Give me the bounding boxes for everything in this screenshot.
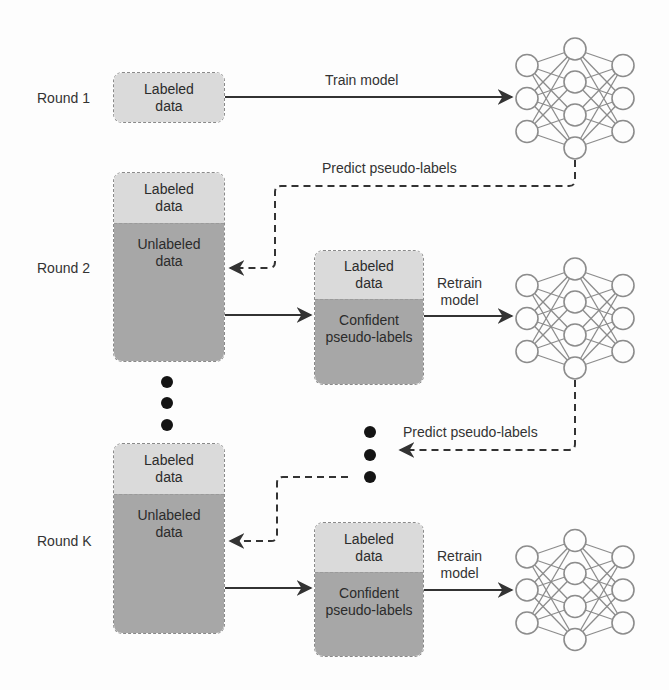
unlabeled-data-text: Unlabeled data — [137, 507, 200, 541]
ellipsis-dot-icon — [161, 397, 173, 409]
neuron-node — [564, 104, 586, 126]
confident-pseudo-labels-text: Confident pseudo-labels — [325, 585, 412, 619]
neuron-node — [612, 88, 634, 110]
round-k-data-box: Labeled data Unlabeled data — [113, 443, 225, 634]
predict-pseudo-labels-label-2: Predict pseudo-labels — [403, 424, 538, 441]
retrain-model-label-k: Retrain model — [437, 548, 482, 582]
neuron-node — [612, 612, 634, 634]
labeled-data-segment: Labeled data — [114, 73, 224, 122]
round-2-data-box: Labeled data Unlabeled data — [113, 172, 225, 362]
predict-pseudo-labels-label-1: Predict pseudo-labels — [322, 160, 457, 177]
neural-network-icon — [516, 38, 634, 159]
labeled-data-text: Labeled data — [144, 181, 194, 215]
labeled-data-segment: Labeled data — [315, 523, 423, 572]
neuron-node — [564, 258, 586, 280]
unlabeled-data-text: Unlabeled data — [137, 236, 200, 270]
neuron-node — [516, 579, 538, 601]
round-1-label: Round 1 — [37, 90, 90, 106]
confident-pseudo-labels-segment: Confident pseudo-labels — [315, 572, 423, 656]
neuron-node — [564, 629, 586, 651]
ellipsis-dot-icon — [364, 449, 376, 461]
neural-network-icon — [516, 530, 634, 651]
neuron-node — [516, 55, 538, 77]
neuron-node — [612, 579, 634, 601]
round-k-label: Round K — [37, 533, 91, 549]
neuron-node — [564, 291, 586, 313]
ellipsis-dot-icon — [364, 426, 376, 438]
neuron-node — [612, 546, 634, 568]
neuron-node — [612, 341, 634, 363]
neuron-node — [564, 71, 586, 93]
train-model-label: Train model — [325, 72, 398, 89]
round-2-label: Round 2 — [37, 260, 90, 276]
labeled-data-text: Labeled data — [144, 81, 194, 115]
neuron-node — [516, 88, 538, 110]
neuron-node — [564, 324, 586, 346]
unlabeled-data-segment: Unlabeled data — [114, 494, 224, 633]
neural-network-icon — [516, 258, 634, 379]
neuron-node — [612, 275, 634, 297]
confident-pseudo-labels-text: Confident pseudo-labels — [325, 312, 412, 346]
pseudo-labeling-diagram: Round 1 Round 2 Round K Labeled data Lab… — [0, 0, 669, 690]
retrain-model-label-2: Retrain model — [437, 275, 482, 309]
ellipsis-dot-icon — [364, 471, 376, 483]
labeled-data-text: Labeled data — [344, 258, 394, 292]
neuron-node — [612, 308, 634, 330]
round-2-training-set-box: Labeled data Confident pseudo-labels — [314, 250, 424, 385]
neuron-node — [564, 357, 586, 379]
neuron-node — [564, 137, 586, 159]
labeled-data-segment: Labeled data — [114, 444, 224, 494]
labeled-data-segment: Labeled data — [315, 251, 423, 299]
neuron-node — [516, 308, 538, 330]
labeled-data-text: Labeled data — [344, 531, 394, 565]
neuron-node — [564, 563, 586, 585]
labeled-data-segment: Labeled data — [114, 173, 224, 223]
neuron-node — [564, 530, 586, 552]
neuron-node — [516, 546, 538, 568]
confident-pseudo-labels-segment: Confident pseudo-labels — [315, 299, 423, 384]
neuron-node — [516, 612, 538, 634]
neuron-node — [516, 121, 538, 143]
unlabeled-data-segment: Unlabeled data — [114, 223, 224, 361]
neuron-node — [516, 341, 538, 363]
neuron-node — [612, 55, 634, 77]
neuron-node — [564, 596, 586, 618]
round-1-labeled-data-box: Labeled data — [113, 72, 225, 123]
ellipsis-dot-icon — [161, 419, 173, 431]
round-k-training-set-box: Labeled data Confident pseudo-labels — [314, 522, 424, 657]
neuron-node — [516, 275, 538, 297]
labeled-data-text: Labeled data — [144, 452, 194, 486]
neuron-node — [564, 38, 586, 60]
neuron-node — [612, 121, 634, 143]
ellipsis-dot-icon — [161, 376, 173, 388]
